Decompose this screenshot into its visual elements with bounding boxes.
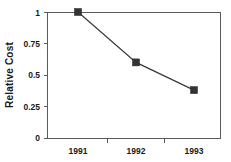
- chart-container: 1 0.75 0.5 0.25 0 1991 1992 1993 Relativ…: [0, 0, 231, 162]
- y-tick-label-075: 0.75: [23, 39, 40, 49]
- series-markers: [75, 9, 198, 94]
- series-line-relative-cost: [78, 12, 194, 90]
- data-point-marker: [75, 9, 82, 16]
- x-tick-label-1991: 1991: [69, 146, 88, 156]
- y-tick-label-025: 0.25: [23, 102, 40, 112]
- data-point-marker: [133, 59, 140, 66]
- x-tick-label-1992: 1992: [127, 146, 146, 156]
- y-tick-label-0: 0: [35, 133, 40, 143]
- line-chart: 1 0.75 0.5 0.25 0 1991 1992 1993 Relativ…: [0, 0, 231, 162]
- data-point-marker: [191, 87, 198, 94]
- y-tick-label-05: 0.5: [28, 70, 40, 80]
- plot-frame: [48, 13, 221, 139]
- y-axis-title: Relative Cost: [4, 42, 15, 108]
- y-tick-label-1: 1: [35, 8, 40, 18]
- y-tick-marks: [44, 13, 48, 139]
- x-tick-label-1993: 1993: [185, 146, 204, 156]
- x-tick-marks: [108, 138, 165, 143]
